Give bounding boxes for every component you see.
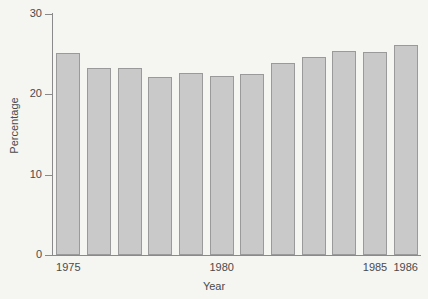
bar <box>363 52 387 255</box>
bar <box>87 68 111 255</box>
y-axis-tick <box>45 14 52 15</box>
bar <box>210 76 234 255</box>
x-axis-label: Year <box>0 281 428 292</box>
x-axis-tick-label: 1985 <box>363 262 387 273</box>
y-axis-tick-label-text: 10 <box>0 169 42 180</box>
y-axis-tick-label: 10 <box>0 169 42 181</box>
x-axis-tick-label: 1986 <box>393 262 417 273</box>
bar <box>118 68 142 255</box>
y-axis-tick <box>45 94 52 95</box>
plot-area <box>53 14 421 255</box>
x-axis-tick-label: 1980 <box>209 262 233 273</box>
bar-chart: 0102030 1975198019851986 Year Percentage <box>0 0 428 299</box>
bar <box>179 73 203 255</box>
y-axis-tick-label-text: 30 <box>0 8 42 19</box>
y-axis-tick <box>45 255 52 256</box>
bar <box>148 77 172 255</box>
y-axis-tick-label: 0 <box>0 249 42 261</box>
bar <box>56 53 80 255</box>
y-axis-tick-label: 20 <box>0 88 42 100</box>
y-axis-tick-label: 30 <box>0 8 42 20</box>
y-axis-tick <box>45 175 52 176</box>
bar <box>394 45 418 255</box>
y-axis-tick-label-text: 0 <box>0 249 42 260</box>
bar <box>332 51 356 255</box>
bar <box>271 63 295 255</box>
x-axis-line <box>52 255 421 256</box>
bar <box>302 57 326 255</box>
bar <box>240 74 264 255</box>
y-axis-label: Percentage <box>9 81 20 171</box>
y-axis-tick-label-text: 20 <box>0 88 42 99</box>
x-axis-tick-label: 1975 <box>56 262 80 273</box>
